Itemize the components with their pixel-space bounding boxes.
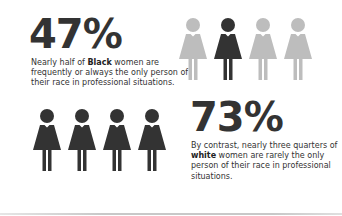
woman-icon (283, 18, 313, 80)
description-text: Nearly half of (31, 58, 87, 67)
woman-icon (137, 109, 167, 171)
description-emphasis: white (191, 151, 216, 160)
bottom-divider (0, 213, 342, 215)
stat-black-women: 47% (29, 14, 122, 54)
woman-icon (213, 18, 243, 80)
woman-icon (248, 18, 278, 80)
woman-icon (32, 109, 62, 171)
woman-icon (67, 109, 97, 171)
description-black-women: Nearly half of Black women are frequentl… (31, 58, 191, 89)
woman-icon (178, 18, 208, 80)
description-text: By contrast, nearly three quarters of (191, 141, 337, 150)
woman-icon (102, 109, 132, 171)
stat-white-women: 73% (190, 97, 283, 137)
description-emphasis: Black (87, 58, 111, 67)
description-white-women: By contrast, nearly three quarters of wh… (191, 141, 341, 182)
